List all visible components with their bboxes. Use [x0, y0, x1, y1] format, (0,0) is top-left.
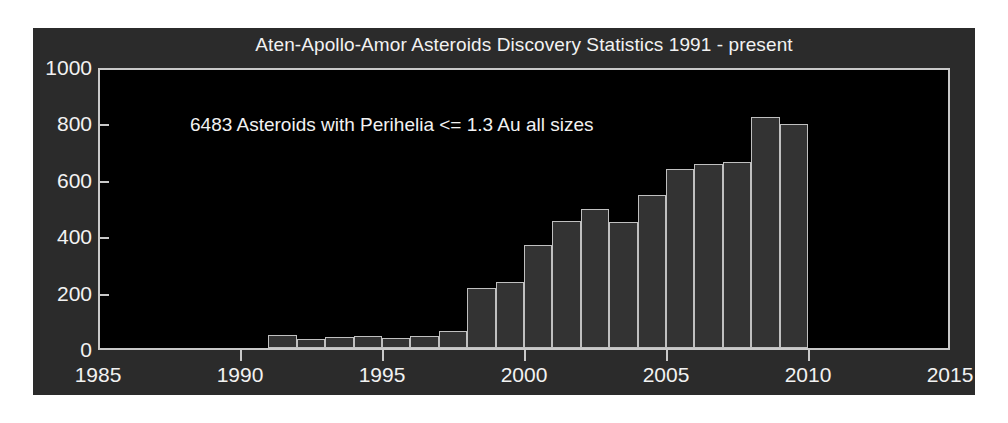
bar: [780, 124, 808, 348]
bar: [581, 209, 609, 348]
x-axis-tick-label: 2005: [611, 363, 721, 387]
x-axis-tick-mark: [524, 350, 526, 361]
bar: [666, 169, 694, 348]
x-axis-tick-label: 1985: [43, 363, 153, 387]
x-axis-tick-mark: [382, 350, 384, 361]
chart-title: Aten-Apollo-Amor Asteroids Discovery Sta…: [98, 34, 950, 56]
plot-area: [98, 68, 950, 350]
bar: [382, 338, 410, 348]
x-axis-tick-mark: [808, 350, 810, 361]
bar: [496, 282, 524, 348]
chart-annotation: 6483 Asteroids with Perihelia <= 1.3 Au …: [190, 114, 593, 136]
y-axis-tick-labels: 02004006008001000: [0, 0, 92, 423]
y-axis-tick-label: 1000: [2, 56, 92, 80]
x-axis-tick-mark: [666, 350, 668, 361]
bar: [268, 335, 296, 348]
bar: [354, 336, 382, 348]
bar: [524, 245, 552, 348]
bar: [751, 117, 779, 348]
bar: [723, 162, 751, 348]
bar: [297, 339, 325, 348]
y-axis-tick-label: 0: [2, 338, 92, 362]
x-axis-tick-label: 2000: [469, 363, 579, 387]
bar: [609, 222, 637, 348]
chart-figure: Aten-Apollo-Amor Asteroids Discovery Sta…: [0, 0, 1008, 423]
bar: [439, 331, 467, 348]
y-axis-tick-label: 600: [2, 169, 92, 193]
y-axis-tick-mark: [98, 124, 109, 126]
bar: [552, 221, 580, 348]
y-axis-tick-label: 200: [2, 282, 92, 306]
x-axis-tick-label: 2015: [895, 363, 1005, 387]
bar: [638, 195, 666, 348]
x-axis-tick-label: 1990: [185, 363, 295, 387]
y-axis-tick-mark: [98, 181, 109, 183]
bar: [410, 336, 438, 348]
bar: [467, 288, 495, 348]
y-axis-tick-label: 400: [2, 225, 92, 249]
bar-series: [100, 70, 948, 348]
y-axis-tick-mark: [98, 237, 109, 239]
bar: [325, 337, 353, 348]
x-axis-tick-label: 2010: [753, 363, 863, 387]
bar: [694, 164, 722, 348]
y-axis-tick-label: 800: [2, 112, 92, 136]
x-axis-tick-label: 1995: [327, 363, 437, 387]
x-axis-tick-mark: [240, 350, 242, 361]
y-axis-tick-mark: [98, 294, 109, 296]
